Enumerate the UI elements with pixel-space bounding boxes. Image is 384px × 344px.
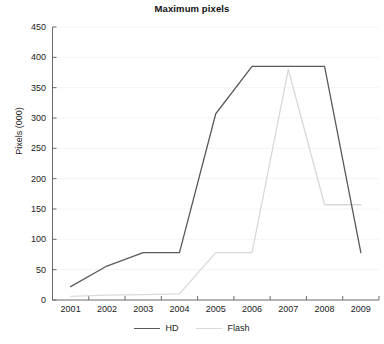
legend-item-hd[interactable]: HD [134, 323, 178, 333]
legend-item-flash[interactable]: Flash [196, 323, 249, 333]
axes [53, 27, 380, 300]
tick-marks [53, 27, 380, 300]
chart-legend: HDFlash [0, 323, 384, 333]
legend-line-swatch-icon [196, 328, 222, 329]
chart-container: Maximum pixels Pixels (000) 050100150200… [0, 0, 384, 344]
series-lines [71, 66, 361, 296]
x-tick-label: 2009 [340, 304, 382, 314]
legend-label: HD [165, 323, 178, 333]
legend-line-swatch-icon [134, 328, 160, 329]
series-line-flash [71, 69, 361, 296]
legend-label: Flash [227, 323, 249, 333]
plot-area [0, 0, 384, 344]
gridlines [53, 27, 380, 270]
